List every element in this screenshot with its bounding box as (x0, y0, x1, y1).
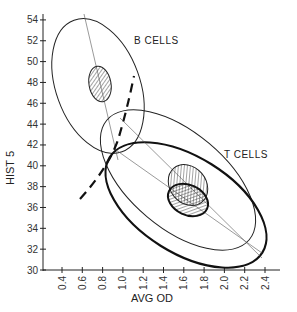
y-tick-label: 40 (27, 160, 39, 171)
y-tick-label: 42 (27, 139, 39, 150)
y-tick-label: 50 (27, 56, 39, 67)
y-tick-label: 54 (27, 14, 39, 25)
y-axis: 30323436384042444648505254 (27, 14, 46, 276)
y-tick-label: 46 (27, 98, 39, 109)
scatter-ellipse-chart: 30323436384042444648505254 0.40.60.81.01… (0, 0, 297, 312)
x-tick-label: 1.6 (178, 276, 189, 290)
x-tick-label: 2.2 (239, 276, 250, 290)
y-tick-label: 30 (27, 265, 39, 276)
y-tick-label: 32 (27, 244, 39, 255)
x-tick-label: 1.8 (199, 276, 210, 290)
y-tick-label: 36 (27, 202, 39, 213)
x-tick-label: 2.0 (219, 276, 230, 290)
y-tick-label: 38 (27, 181, 39, 192)
b-cells-label: B CELLS (134, 35, 179, 46)
y-tick-label: 34 (27, 223, 39, 234)
x-axis: 0.40.60.81.01.21.41.61.82.02.22.4 (43, 267, 280, 290)
x-tick-label: 1.2 (138, 276, 149, 290)
x-tick-label: 0.4 (57, 276, 68, 290)
x-tick-label: 1.4 (158, 276, 169, 290)
x-tick-label: 0.6 (77, 276, 88, 290)
x-tick-label: 1.0 (117, 276, 128, 290)
x-tick-label: 0.8 (97, 276, 108, 290)
y-tick-label: 48 (27, 77, 39, 88)
x-axis-title: AVG OD (131, 292, 173, 304)
y-tick-label: 52 (27, 35, 39, 46)
t-cells-label: T CELLS (224, 149, 268, 160)
x-tick-label: 2.4 (260, 276, 271, 290)
y-axis-title: HIST 5 (4, 151, 16, 185)
y-tick-label: 44 (27, 119, 39, 130)
